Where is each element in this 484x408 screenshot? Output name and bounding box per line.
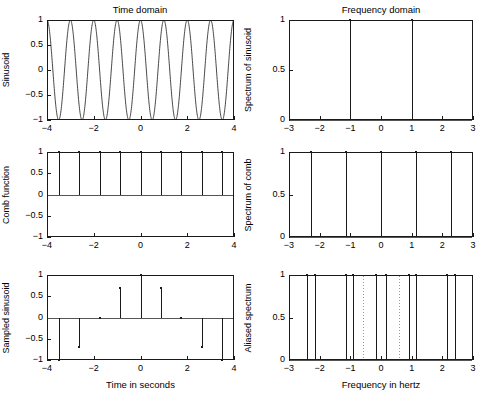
stem-marker <box>310 151 312 153</box>
stem-marker <box>119 287 121 289</box>
stem-marker <box>99 151 101 153</box>
stem-marker <box>160 151 162 153</box>
ytick-label: 1 <box>257 14 285 24</box>
zero-baseline <box>290 120 472 121</box>
xtick-label: −1 <box>336 240 364 250</box>
ytick-label: 1 <box>257 146 285 156</box>
stem-line <box>350 20 351 120</box>
ytick-mark <box>47 237 51 238</box>
xtick-label: −3 <box>275 240 303 250</box>
ytick-label: 0.5 <box>257 312 285 322</box>
stem-line <box>202 152 203 195</box>
ylabel-middle-left: Comb function <box>1 165 11 223</box>
stem-line <box>202 318 203 348</box>
ytick-label: −0.5 <box>15 210 43 220</box>
ytick-label: 1 <box>15 269 43 279</box>
stem-line <box>79 318 80 348</box>
xtick-label: 3 <box>459 240 484 250</box>
stem-line <box>412 20 413 120</box>
zero-baseline <box>48 195 233 196</box>
stem-line <box>416 152 417 237</box>
stem-marker <box>78 346 80 348</box>
xtick-mark <box>141 356 142 360</box>
stem-line <box>346 152 347 237</box>
zero-baseline <box>290 360 472 361</box>
xtick-label: 2 <box>428 123 456 133</box>
stem-line <box>181 152 182 195</box>
stem-marker <box>119 151 121 153</box>
stem-line <box>59 318 60 361</box>
ytick-mark <box>289 152 293 153</box>
ytick-label: 1 <box>257 269 285 279</box>
xtick-label: 0 <box>127 363 155 373</box>
stem-line <box>381 152 382 237</box>
xtick-label: 0 <box>127 240 155 250</box>
xtick-mark <box>234 233 235 237</box>
stem-line <box>59 152 60 195</box>
stem-line <box>161 152 162 195</box>
xtick-mark <box>187 356 188 360</box>
xtick-mark <box>141 233 142 237</box>
xtick-label: −4 <box>33 240 61 250</box>
stem-line <box>409 275 410 360</box>
nyquist-line <box>399 276 400 359</box>
stem-marker <box>221 359 223 361</box>
xtick-mark <box>234 116 235 120</box>
stem-marker <box>380 151 382 153</box>
stem-line <box>353 275 354 360</box>
ytick-mark <box>47 275 51 276</box>
xtick-label: −2 <box>306 240 334 250</box>
stem-line <box>315 275 316 360</box>
ytick-label: 0 <box>15 312 43 322</box>
xtick-label: 0 <box>367 123 395 133</box>
ylabel-top-right: Spectrum of sinusoid <box>243 28 253 112</box>
stem-line <box>120 288 121 318</box>
xtick-label: 4 <box>220 240 248 250</box>
stem-line <box>451 152 452 237</box>
stem-line <box>222 318 223 361</box>
xtick-label: 2 <box>428 363 456 373</box>
ytick-mark <box>289 20 293 21</box>
stem-marker <box>78 151 80 153</box>
stem-line <box>416 275 417 360</box>
xtick-mark <box>473 233 474 237</box>
ytick-label: 0.5 <box>257 189 285 199</box>
ytick-mark <box>47 173 51 174</box>
stem-line <box>386 275 387 360</box>
ytick-mark <box>289 275 293 276</box>
stem-marker <box>352 274 354 276</box>
ytick-label: 0.5 <box>257 64 285 74</box>
ytick-label: −0.5 <box>15 333 43 343</box>
stem-marker <box>450 151 452 153</box>
ytick-mark <box>47 296 51 297</box>
xtick-label: −2 <box>80 363 108 373</box>
stem-marker <box>314 274 316 276</box>
xtick-label: 1 <box>398 123 426 133</box>
xtick-label: 2 <box>173 363 201 373</box>
stem-marker <box>408 274 410 276</box>
ytick-label: 0.5 <box>15 290 43 300</box>
stem-line <box>161 288 162 318</box>
xtick-label: 2 <box>173 240 201 250</box>
ytick-mark <box>289 70 293 71</box>
stem-line <box>222 152 223 195</box>
stem-marker <box>415 274 417 276</box>
ylabel-middle-right: Spectrum of comb <box>243 158 253 231</box>
stem-line <box>455 275 456 360</box>
stem-marker <box>221 151 223 153</box>
xtick-mark <box>187 233 188 237</box>
stem-marker <box>201 346 203 348</box>
zero-baseline <box>48 318 233 319</box>
xtick-mark <box>473 116 474 120</box>
xtick-mark <box>94 233 95 237</box>
stem-marker <box>345 274 347 276</box>
xtick-label: 1 <box>398 363 426 373</box>
stem-line <box>141 152 142 195</box>
ytick-mark <box>289 318 293 319</box>
stem-marker <box>306 274 308 276</box>
xtick-label: −2 <box>80 123 108 133</box>
stem-marker <box>180 151 182 153</box>
stem-marker <box>446 274 448 276</box>
xtick-label: 2 <box>428 240 456 250</box>
xlabel-bottom-left: Time in seconds <box>61 379 221 390</box>
